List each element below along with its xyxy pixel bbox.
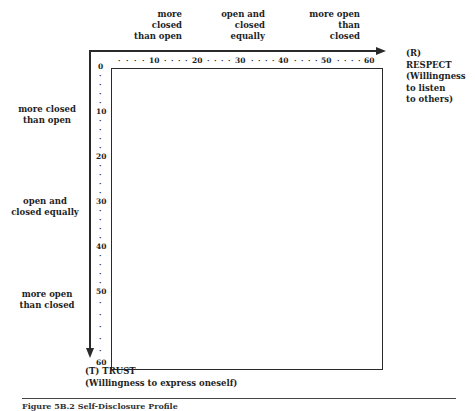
- tick-label: 20: [96, 152, 106, 161]
- tick-label: 30: [235, 56, 245, 65]
- tick-label: 50: [321, 56, 331, 65]
- axis-desc-line: to listen: [406, 83, 475, 95]
- label-line: equally: [200, 31, 265, 42]
- label-line: open and: [200, 9, 265, 20]
- tick-label: 20: [192, 56, 202, 65]
- label-line: closed: [108, 20, 182, 31]
- label-line: more closed: [8, 104, 86, 115]
- label-line: than open: [108, 31, 182, 42]
- profile-grid-box[interactable]: [111, 68, 383, 370]
- tick-label: 50: [96, 287, 106, 296]
- label-line: than closed: [8, 300, 86, 311]
- axis-desc-line: (Willingness to express oneself): [85, 378, 345, 390]
- label-line: than: [290, 20, 360, 31]
- axis-name: RESPECT: [406, 60, 475, 72]
- tick-label: 30: [96, 197, 106, 206]
- label-line: closed: [290, 31, 360, 42]
- axis-code: (R): [406, 48, 475, 60]
- trust-axis-line: [89, 50, 91, 352]
- top-label-more-closed: more closed than open: [108, 9, 182, 42]
- label-line: closed equally: [4, 207, 86, 218]
- respect-axis-label: (R) RESPECT (Willingness to listen to ot…: [406, 48, 475, 106]
- label-line: more open: [8, 289, 86, 300]
- tick-label: 0: [98, 62, 103, 71]
- axis-desc-line: to others): [406, 94, 475, 106]
- tick-label: 10: [149, 56, 159, 65]
- top-label-equal: open and closed equally: [200, 9, 265, 42]
- tick-label: 40: [278, 56, 288, 65]
- arrow-down-icon: [86, 348, 94, 358]
- left-label-more-closed: more closed than open: [8, 104, 86, 126]
- label-line: open and: [4, 196, 86, 207]
- respect-axis-line: [90, 50, 380, 52]
- trust-axis-label: (T) TRUST (Willingness to express onesel…: [85, 366, 345, 389]
- axis-name: (T) TRUST: [85, 366, 345, 378]
- arrow-right-icon: [376, 47, 386, 55]
- left-label-equal: open and closed equally: [4, 196, 86, 218]
- label-line: more: [108, 9, 182, 20]
- tick-label: 10: [96, 107, 106, 116]
- axis-desc-line: (Willingness: [406, 71, 475, 83]
- caption-divider: [22, 398, 456, 399]
- respect-tick-row: ···· 10 ···· 20 ···· 30 ···· 40 ···· 50 …: [118, 56, 388, 67]
- tick-label: 40: [96, 242, 106, 251]
- label-line: more open: [290, 9, 360, 20]
- figure-caption: Figure 5B.2 Self-Disclosure Profile: [22, 401, 178, 411]
- trust-tick-column: 0 ···· 10 ···· 20 ···· 30 ···· 40 ···· 5…: [96, 62, 110, 372]
- tick-label: 60: [364, 56, 374, 65]
- label-line: than open: [8, 115, 86, 126]
- top-label-more-open: more open than closed: [290, 9, 360, 42]
- left-label-more-open: more open than closed: [8, 289, 86, 311]
- label-line: closed: [200, 20, 265, 31]
